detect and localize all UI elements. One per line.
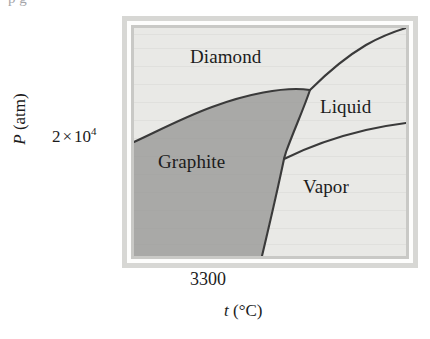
x-axis-title: t (°C) (224, 302, 262, 320)
y-axis-tick-label: 2×104 (52, 128, 97, 146)
x-axis-tick-label: 3300 (190, 270, 226, 289)
y-tick-exponent: 4 (91, 125, 97, 137)
x-axis-unit: (°C) (233, 301, 262, 320)
phase-diagram-svg (134, 28, 406, 256)
plot-area: Diamond Graphite Liquid Vapor (134, 28, 406, 256)
y-axis-unit: (atm) (10, 93, 29, 130)
region-label-vapor: Vapor (303, 177, 349, 196)
region-label-liquid: Liquid (320, 97, 371, 116)
y-tick-base: 10 (74, 127, 91, 146)
region-label-diamond: Diamond (190, 47, 261, 66)
cropped-caption-remnant: p g (8, 0, 27, 7)
y-axis-variable: P (10, 134, 29, 144)
region-label-graphite: Graphite (158, 152, 225, 171)
multiplication-sign-icon: × (61, 127, 75, 146)
y-tick-mantissa: 2 (52, 127, 61, 146)
carbon-phase-diagram-figure: p g (0, 0, 430, 339)
y-axis-title: P (atm) (11, 74, 29, 164)
